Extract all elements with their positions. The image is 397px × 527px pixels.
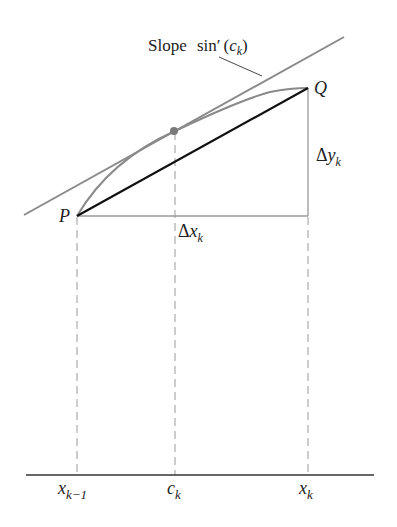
slope-label: Slope sin′(ck) — [148, 36, 248, 58]
secant-pq — [77, 88, 308, 216]
axis-label-ck: ck — [167, 478, 181, 502]
point-p-label: P — [58, 206, 70, 226]
label-leader-line — [219, 57, 262, 76]
tangent-point — [170, 127, 178, 135]
mvt-diagram: Slope sin′(ck) P Q Δyk Δxk xk−1 ck xk — [0, 0, 397, 527]
point-q-label: Q — [314, 78, 327, 98]
axis-label-xk: xk — [298, 478, 313, 502]
axis-label-xk-minus-1: xk−1 — [57, 478, 87, 502]
delta-y-label: Δyk — [316, 145, 342, 169]
delta-x-label: Δxk — [178, 221, 204, 245]
